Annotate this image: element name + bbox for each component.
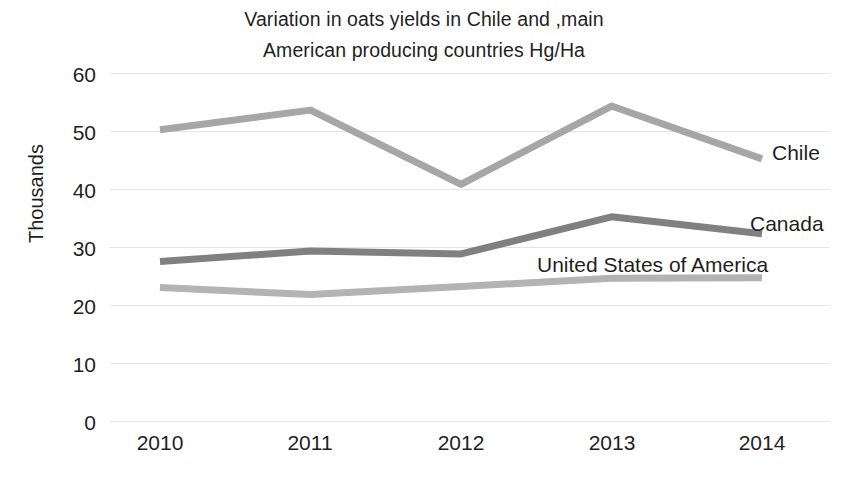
x-tick-2012: 2012 bbox=[401, 432, 521, 453]
chart-title: Variation in oats yields in Chile and ,m… bbox=[0, 4, 848, 66]
y-tick-30: 30 bbox=[20, 238, 96, 259]
series-label-usa: United States of America bbox=[537, 254, 768, 275]
y-tick-40: 40 bbox=[20, 180, 96, 201]
chart-title-line-2: American producing countries Hg/Ha bbox=[0, 35, 848, 66]
y-tick-60: 60 bbox=[20, 64, 96, 85]
x-tick-2011: 2011 bbox=[250, 432, 370, 453]
series-lines bbox=[110, 73, 830, 421]
chart-title-line-1: Variation in oats yields in Chile and ,m… bbox=[0, 4, 848, 35]
series-line-chile bbox=[160, 106, 762, 184]
x-tick-2014: 2014 bbox=[702, 432, 822, 453]
y-tick-0: 0 bbox=[20, 412, 96, 433]
series-label-chile: Chile bbox=[772, 142, 820, 163]
y-tick-10: 10 bbox=[20, 354, 96, 375]
gridline-0 bbox=[110, 421, 830, 422]
chart-container: Variation in oats yields in Chile and ,m… bbox=[0, 0, 848, 478]
plot-area bbox=[110, 73, 830, 421]
y-tick-50: 50 bbox=[20, 122, 96, 143]
x-tick-2010: 2010 bbox=[100, 432, 220, 453]
series-label-canada: Canada bbox=[750, 213, 824, 234]
y-tick-20: 20 bbox=[20, 296, 96, 317]
series-line-usa bbox=[160, 278, 762, 295]
x-tick-2013: 2013 bbox=[552, 432, 672, 453]
